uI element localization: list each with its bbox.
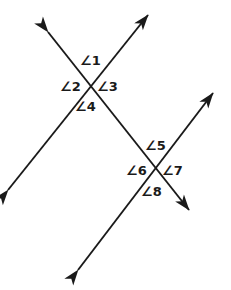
line-c [78,93,213,270]
line-b [48,32,189,210]
angle-label-3: ∠3 [97,80,118,93]
angle-label-5: ∠5 [145,139,166,152]
angle-label-8: ∠8 [141,185,162,198]
angle-label-2: ∠2 [60,80,81,93]
angle-label-6: ∠6 [126,164,147,177]
geometry-diagram: ∠1 ∠2 ∠3 ∠4 ∠5 ∠6 ∠7 ∠8 [0,0,231,290]
angle-label-7: ∠7 [162,164,183,177]
angle-label-1: ∠1 [80,54,101,67]
geometry-canvas [0,0,231,290]
lines-group [8,15,213,270]
angle-label-4: ∠4 [75,100,96,113]
